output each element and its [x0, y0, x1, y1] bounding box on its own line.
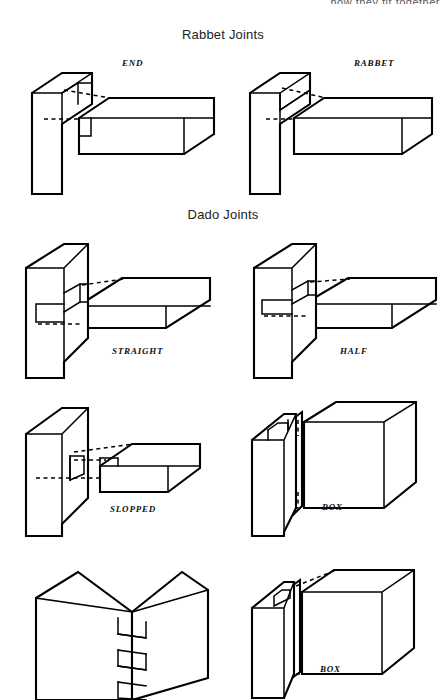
figure-rabbet-end: END [14, 46, 224, 181]
dado-box-lower-drawing [244, 556, 442, 698]
dado-slopped-drawing [14, 396, 214, 536]
caption-dado-box-upper: BOX [322, 502, 343, 512]
rabbet-rabbet-drawing [236, 46, 441, 181]
section-heading-rabbet: Rabbet Joints [0, 27, 446, 42]
figure-rabbet-rabbet: RABBET [236, 46, 441, 181]
dado-half-drawing [244, 238, 442, 380]
caption-rabbet-end: END [122, 58, 143, 68]
figure-dado-box-upper: BOX [244, 396, 442, 538]
figure-dado-slopped: SLOPPED [14, 396, 214, 536]
figure-dado-half: HALF [244, 238, 442, 380]
rabbet-end-drawing [14, 46, 224, 181]
running-head: how they fit together [330, 0, 440, 4]
caption-dado-box-lower: BOX [320, 664, 341, 674]
dado-box-upper-drawing [244, 396, 442, 538]
dado-straight-drawing [14, 238, 214, 380]
caption-dado-half: HALF [340, 346, 368, 356]
caption-dado-slopped: SLOPPED [110, 504, 156, 514]
figure-dado-box-lower: BOX [244, 556, 442, 698]
caption-dado-straight: STRAIGHT [112, 346, 163, 356]
figure-dado-straight: STRAIGHT [14, 238, 214, 380]
caption-rabbet-rabbet: RABBET [354, 58, 394, 68]
figure-corner-finger [26, 560, 216, 700]
section-heading-dado: Dado Joints [0, 207, 446, 222]
corner-finger-drawing [26, 560, 216, 700]
